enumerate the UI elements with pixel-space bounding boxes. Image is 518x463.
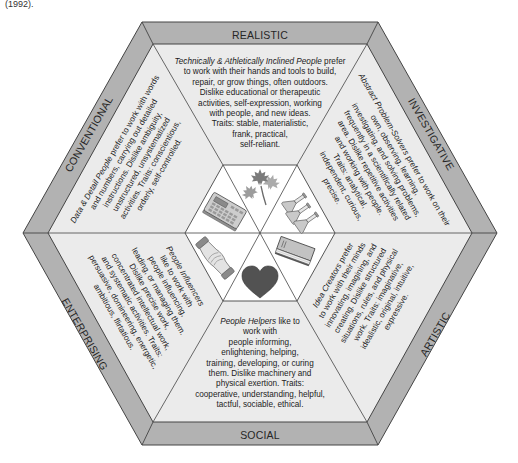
description-line: work with (242, 327, 278, 336)
description-line: tactful, sociable, ethical. (217, 400, 304, 409)
description-line: to work with their hands and tools to bu… (184, 67, 336, 76)
lead-rest: like to (276, 317, 300, 326)
description-line: with people, and new ideas. (208, 109, 310, 118)
description-line: self-reliant. (240, 140, 280, 149)
description-line: activities, self-expression, working (198, 99, 322, 108)
description-line: Dislike educational or therapeutic (200, 88, 321, 97)
description-line: them. Dislike machinery and (209, 369, 312, 378)
description-line: cooperative, understanding, helpful, (195, 390, 325, 399)
holland-hexagon-diagram: (1992). (0, 0, 518, 463)
description-line: physical exertion. Traits: (216, 379, 304, 388)
type-name: Technically & Athletically Inclined Peop… (175, 57, 323, 66)
band-label-social: SOCIAL (240, 429, 280, 441)
description-line: enlightening, helping, (221, 348, 298, 357)
description-line: People Helpers like to (220, 317, 300, 326)
type-name: People Helpers (220, 317, 276, 326)
band-label-realistic: REALISTIC (232, 29, 288, 41)
description-line: Technically & Athletically Inclined Peop… (175, 57, 346, 66)
description-line: frank, practical, (232, 130, 288, 139)
description-line: repair, or grow things, often outdoors. (192, 78, 328, 87)
caption-fragment: (1992). (5, 0, 34, 9)
lead-rest: prefer (322, 57, 346, 66)
description-line: Traits: stable, materialistic, (212, 119, 309, 128)
description-line: training, developing, or curing (206, 359, 314, 368)
description-line: people informing, (229, 338, 292, 347)
